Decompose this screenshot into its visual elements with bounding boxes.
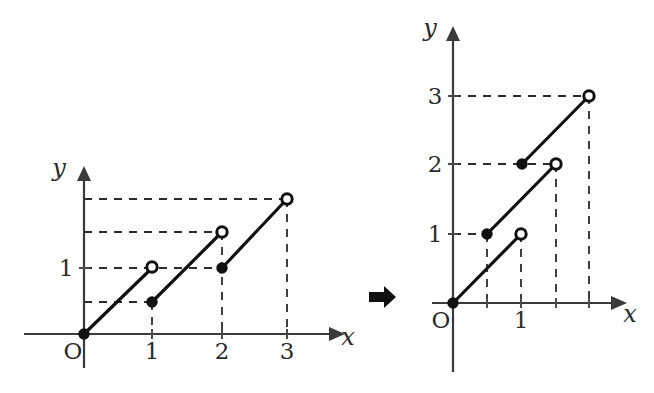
right-x-axis-label: x <box>623 300 637 328</box>
right-y-tick-label-3: 3 <box>428 83 443 109</box>
left-y-axis-label: y <box>51 154 66 182</box>
left-x-tick-label-2: 2 <box>215 338 230 364</box>
right-y-tick-label-2: 2 <box>428 151 443 177</box>
left-x-tick-label-1: 1 <box>145 338 160 364</box>
left-step-segments <box>84 199 287 334</box>
left-closed-points <box>79 263 226 338</box>
left-y-tick-label-1: 1 <box>59 255 74 281</box>
transform-arrow <box>369 286 396 308</box>
left-graph: y x O 1 2 3 1 <box>24 154 355 368</box>
diagram-svg: y x O 1 2 3 1 <box>0 0 654 393</box>
left-open-points <box>147 194 292 272</box>
right-y-axis-label: y <box>422 14 437 42</box>
figure-canvas: y x O 1 2 3 1 <box>0 0 654 393</box>
right-dashed-drops <box>487 96 589 303</box>
left-dashed-rails <box>84 199 287 302</box>
right-x-tick-label-1: 1 <box>514 307 529 333</box>
left-x-tick-label-3: 3 <box>280 338 295 364</box>
left-x-axis-label: x <box>341 323 355 351</box>
right-graph: y x O 1 1 2 3 <box>422 14 637 372</box>
right-x-axis <box>432 296 627 310</box>
left-origin-label: O <box>64 338 83 364</box>
right-y-tick-label-1: 1 <box>428 221 443 247</box>
right-origin-label: O <box>432 307 451 333</box>
